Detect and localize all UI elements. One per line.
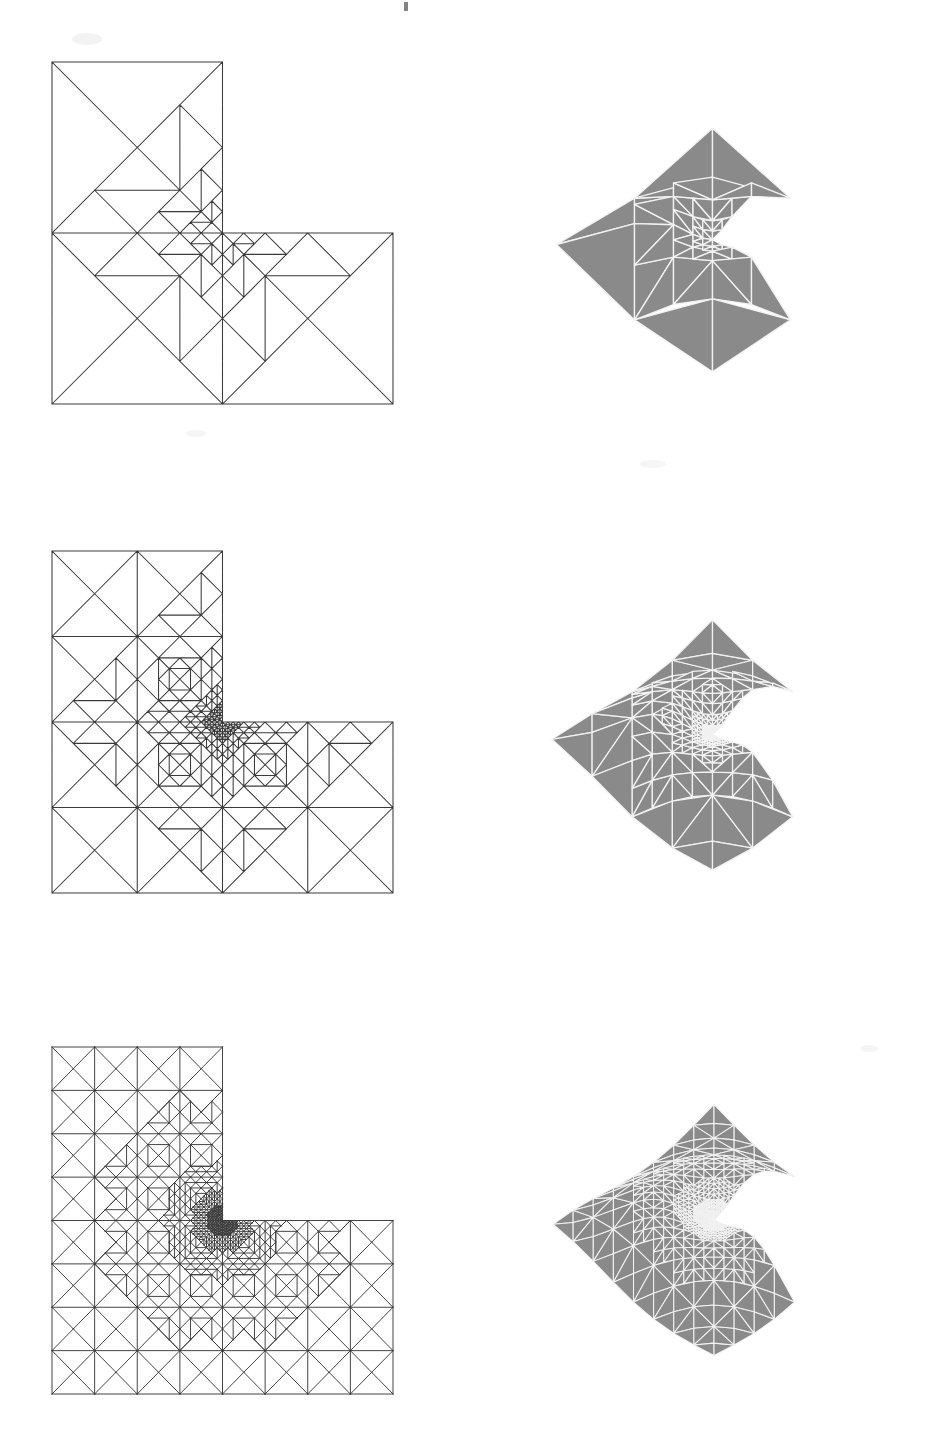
scan-artifact-top xyxy=(404,2,408,11)
surface-face xyxy=(553,1222,573,1241)
surface-face xyxy=(729,1196,734,1203)
mesh-panel-level-1 xyxy=(52,62,393,404)
surface-face xyxy=(593,1191,613,1199)
surface-faces xyxy=(557,128,791,371)
surface-face xyxy=(732,196,752,216)
scan-speck xyxy=(860,1045,878,1052)
surface-panel-level-3 xyxy=(536,1145,892,1320)
surface-face xyxy=(764,1249,774,1265)
surface-face xyxy=(714,1104,734,1125)
figure-page: Adaptive mesh refinement sequence on L-s… xyxy=(0,0,936,1452)
mesh-panel-level-2 xyxy=(52,551,393,893)
surface-face xyxy=(713,620,753,661)
scan-speck xyxy=(640,460,666,468)
mesh-edges xyxy=(52,551,393,893)
surface-face xyxy=(743,745,753,753)
mesh-level-2-svg xyxy=(52,551,393,893)
mesh-level-1-svg xyxy=(52,62,393,404)
mesh-edges xyxy=(52,1047,393,1394)
surface-level-3-svg xyxy=(536,1145,892,1320)
surface-panel-level-1 xyxy=(540,175,885,330)
scan-speck xyxy=(186,430,206,437)
surface-face xyxy=(694,1343,714,1355)
scan-speck xyxy=(72,33,102,45)
surface-face xyxy=(553,1210,573,1224)
surface-face xyxy=(694,1104,714,1125)
surface-faces xyxy=(553,1104,794,1355)
surface-face xyxy=(744,1230,754,1238)
surface-level-2-svg xyxy=(535,665,890,830)
mesh-panel-level-3 xyxy=(52,1047,393,1394)
surface-face xyxy=(754,1237,764,1249)
surface-face xyxy=(552,732,592,776)
surface-face xyxy=(744,1175,754,1183)
surface-face xyxy=(592,698,632,718)
surface-panel-level-2 xyxy=(535,665,890,830)
surface-faces xyxy=(552,620,793,870)
surface-face xyxy=(743,690,753,698)
surface-level-1-svg xyxy=(540,175,885,330)
mesh-level-3-svg xyxy=(52,1047,393,1394)
mesh-edges xyxy=(52,62,393,404)
